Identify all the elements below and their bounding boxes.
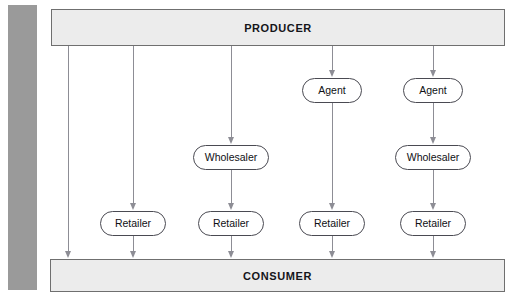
node-agent-2[interactable]: Agent xyxy=(403,78,463,103)
connector-producer-to-agent-c5 xyxy=(433,46,434,71)
connector-producer-to-consumer-c1 xyxy=(68,46,69,252)
connector-wholesaler-to-retailer-c5 xyxy=(433,170,434,204)
connector-wholesaler-to-retailer-c3 xyxy=(231,170,232,204)
node-retailer-1[interactable]: Retailer xyxy=(100,211,166,236)
node-agent-2-label: Agent xyxy=(419,85,446,96)
node-wholesaler-2-label: Wholesaler xyxy=(407,152,460,163)
producer-label: PRODUCER xyxy=(244,22,312,34)
diagram-canvas: PRODUCER CONSUMER Agent Agent Wholesaler… xyxy=(0,0,509,299)
arrowhead-wholesaler-c3 xyxy=(228,137,234,144)
arrowhead-retailer-c4 xyxy=(329,203,335,210)
node-wholesaler-1-label: Wholesaler xyxy=(205,152,258,163)
arrowhead-retailer-c2 xyxy=(130,203,136,210)
producer-box[interactable]: PRODUCER xyxy=(51,9,505,46)
arrowhead-wholesaler-c5 xyxy=(430,137,436,144)
arrowhead-consumer-c1 xyxy=(65,251,71,258)
connector-producer-to-agent-c4 xyxy=(332,46,333,71)
node-retailer-3[interactable]: Retailer xyxy=(299,211,365,236)
connector-agent-to-retailer-c4 xyxy=(332,103,333,204)
node-retailer-2[interactable]: Retailer xyxy=(198,211,264,236)
arrowhead-consumer-c3 xyxy=(228,251,234,258)
arrowhead-consumer-c5 xyxy=(430,251,436,258)
arrowhead-retailer-c5 xyxy=(430,203,436,210)
connector-producer-to-retailer-c2 xyxy=(133,46,134,204)
arrowhead-retailer-c3 xyxy=(228,203,234,210)
node-wholesaler-2[interactable]: Wholesaler xyxy=(395,145,471,170)
connector-retailer-to-consumer-c5 xyxy=(433,236,434,252)
node-retailer-4-label: Retailer xyxy=(415,218,451,229)
node-agent-1-label: Agent xyxy=(318,85,345,96)
arrowhead-consumer-c4 xyxy=(329,251,335,258)
node-agent-1[interactable]: Agent xyxy=(302,78,362,103)
node-retailer-2-label: Retailer xyxy=(213,218,249,229)
consumer-label: CONSUMER xyxy=(243,270,312,282)
node-retailer-1-label: Retailer xyxy=(115,218,151,229)
arrowhead-agent-c5 xyxy=(430,70,436,77)
arrowhead-consumer-c2 xyxy=(130,251,136,258)
connector-producer-to-wholesaler-c3 xyxy=(231,46,232,138)
left-gray-bar xyxy=(8,5,37,290)
node-retailer-4[interactable]: Retailer xyxy=(400,211,466,236)
connector-retailer-to-consumer-c2 xyxy=(133,236,134,252)
node-wholesaler-1[interactable]: Wholesaler xyxy=(193,145,269,170)
arrowhead-agent-c4 xyxy=(329,70,335,77)
connector-retailer-to-consumer-c4 xyxy=(332,236,333,252)
consumer-box[interactable]: CONSUMER xyxy=(50,259,505,292)
connector-retailer-to-consumer-c3 xyxy=(231,236,232,252)
connector-agent-to-wholesaler-c5 xyxy=(433,103,434,138)
node-retailer-3-label: Retailer xyxy=(314,218,350,229)
